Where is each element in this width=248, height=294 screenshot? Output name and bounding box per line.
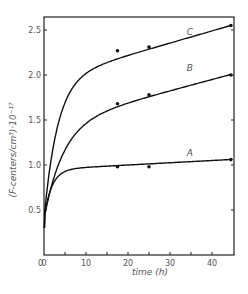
data-point [229,73,233,77]
axis-ticks: 0102030400.51.01.52.02.50 [28,26,234,268]
x-tick-label: 10 [81,259,91,268]
data-point [147,93,151,97]
y-tick-label: 0.5 [28,206,41,215]
series-c-line [44,26,230,228]
chart: 0102030400.51.01.52.02.50 ABC time (h) (… [0,0,248,294]
data-point [116,102,120,106]
series-label: A [186,148,193,158]
data-point [116,165,120,169]
y-tick-label: 2.0 [28,71,41,80]
data-point [147,165,151,169]
data-point [116,49,120,53]
series-label: B [187,63,193,73]
data-point [229,24,233,28]
y-tick-label: 1.0 [28,161,41,170]
data-point [229,158,233,162]
y-tick-label: 1.5 [28,116,41,125]
series-b-line [44,75,230,228]
y-tick-label: 2.5 [28,26,41,35]
y-axis-label: (F-centers/cm³)·10⁻¹⁷ [8,102,18,198]
series-curves: ABC [44,24,232,228]
series-a-line [44,160,230,229]
axis-labels: time (h) (F-centers/cm³)·10⁻¹⁷ [8,102,168,277]
svg-text:0: 0 [38,259,43,268]
series-label: C [187,27,194,37]
x-tick-label: 40 [207,259,217,268]
data-point [147,45,151,49]
x-axis-label: time (h) [132,267,168,277]
